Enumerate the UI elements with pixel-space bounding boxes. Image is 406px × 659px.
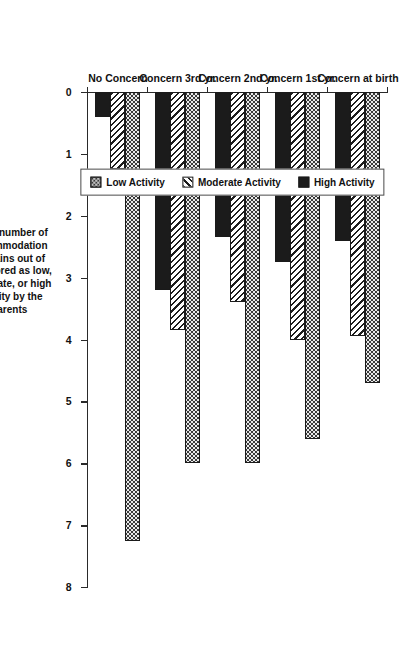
legend-swatch-icon: [90, 177, 101, 188]
value-tick: [81, 278, 88, 279]
value-tick: [81, 92, 88, 93]
value-tick-label: 6: [60, 458, 78, 469]
axis-title-line: parents: [0, 304, 69, 317]
bar-moderate-activity: [351, 92, 366, 336]
bar-moderate-activity: [291, 92, 306, 340]
legend-label: High Activity: [314, 177, 375, 187]
value-tick: [81, 216, 88, 217]
legend-label: Low Activity: [106, 177, 165, 187]
category-tick: [387, 87, 388, 93]
value-axis-title: Mean number ofaccommodationdomains out o…: [0, 227, 69, 317]
value-tick: [81, 525, 88, 526]
value-tick: [81, 154, 88, 155]
bar-low-activity: [306, 92, 321, 439]
category-tick: [207, 87, 208, 93]
legend-swatch-icon: [182, 177, 193, 188]
value-tick: [81, 587, 88, 588]
bar-high-activity: [336, 92, 351, 241]
bar-high-activity: [96, 92, 111, 117]
axis-title-line: moderate, or high: [0, 278, 69, 291]
legend-swatch-icon: [298, 177, 309, 188]
rotated-figure-canvas: Concern at birthConcern 1st yr.Concern 2…: [0, 0, 406, 659]
bar-moderate-activity: [231, 92, 246, 302]
bar-low-activity: [126, 92, 141, 541]
bar-low-activity: [186, 92, 201, 463]
value-tick-label: 4: [60, 334, 78, 345]
legend-item-high-activity: High Activity: [298, 177, 375, 188]
category-tick: [147, 87, 148, 93]
value-tick-label: 2: [60, 211, 78, 222]
value-tick-label: 5: [60, 396, 78, 407]
value-tick-label: 0: [60, 87, 78, 98]
legend-item-moderate-activity: Moderate Activity: [182, 177, 281, 188]
legend-item-low-activity: Low Activity: [90, 177, 165, 188]
value-tick: [81, 463, 88, 464]
axis-title-line: Mean number of: [0, 227, 69, 240]
bar-chart-plot-area: Concern at birthConcern 1st yr.Concern 2…: [88, 92, 388, 587]
axis-title-line: domains out of: [0, 253, 69, 266]
axis-title-line: accommodation: [0, 240, 69, 253]
category-tick: [327, 87, 328, 93]
category-label: Concern 3rd yr.: [139, 73, 216, 84]
chart-legend: Low ActivityModerate ActivityHigh Activi…: [80, 169, 384, 196]
category-label: No Concern: [88, 73, 148, 84]
value-tick-label: 8: [60, 582, 78, 593]
bar-moderate-activity: [171, 92, 186, 330]
value-tick-label: 7: [60, 520, 78, 531]
value-tick: [81, 340, 88, 341]
value-tick-label: 1: [60, 149, 78, 160]
axis-title-line: 12, scored as low,: [0, 266, 69, 279]
figure-page: Concern at birthConcern 1st yr.Concern 2…: [0, 0, 406, 659]
bar-moderate-activity: [111, 92, 126, 169]
category-tick: [267, 87, 268, 93]
value-tick: [81, 401, 88, 402]
bar-low-activity: [246, 92, 261, 463]
axis-title-line: activity by the: [0, 291, 69, 304]
bar-low-activity: [366, 92, 381, 383]
bar-high-activity: [216, 92, 231, 237]
legend-label: Moderate Activity: [198, 177, 281, 187]
